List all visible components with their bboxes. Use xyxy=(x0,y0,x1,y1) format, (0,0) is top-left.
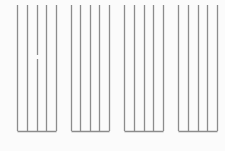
group-2 xyxy=(72,5,110,132)
group-3 xyxy=(125,5,164,132)
group-1 xyxy=(18,5,57,132)
comb-diagram xyxy=(0,0,225,151)
group-4 xyxy=(179,5,218,132)
